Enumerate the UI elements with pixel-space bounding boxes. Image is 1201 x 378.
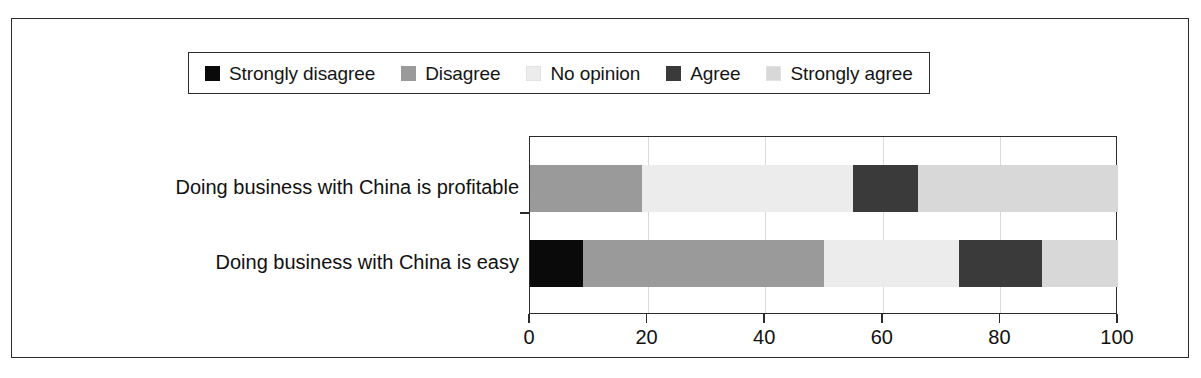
bar-segment bbox=[824, 240, 959, 287]
y-axis-tick bbox=[520, 212, 530, 214]
bar-segment bbox=[530, 240, 583, 287]
legend-entry[interactable]: Agree bbox=[666, 64, 740, 83]
stacked-bar-profitable bbox=[530, 165, 1116, 212]
plot-area bbox=[529, 136, 1117, 314]
legend-swatch-icon bbox=[666, 66, 681, 81]
legend-label: Strongly agree bbox=[790, 64, 912, 83]
legend-swatch-icon bbox=[766, 66, 781, 81]
x-axis-tick bbox=[528, 314, 530, 323]
x-axis-tick-label: 0 bbox=[523, 326, 534, 349]
legend-entry[interactable]: Strongly agree bbox=[766, 64, 912, 83]
legend-label: No opinion bbox=[550, 64, 640, 83]
legend-swatch-icon bbox=[205, 66, 220, 81]
x-axis-tick bbox=[763, 314, 765, 323]
x-axis-tick-label: 60 bbox=[871, 326, 893, 349]
x-axis-tick-label: 40 bbox=[753, 326, 775, 349]
figure-frame: Strongly disagreeDisagreeNo opinionAgree… bbox=[11, 18, 1189, 358]
legend-label: Strongly disagree bbox=[229, 64, 375, 83]
bar-segment bbox=[959, 240, 1041, 287]
bar-segment bbox=[642, 165, 854, 212]
legend-entry[interactable]: Strongly disagree bbox=[205, 64, 375, 83]
x-axis-tick bbox=[646, 314, 648, 323]
scan-edge-artifact bbox=[0, 0, 1201, 12]
bar-segment bbox=[918, 165, 1118, 212]
category-axis-labels: Doing business with China is profitable … bbox=[32, 136, 519, 314]
bar-segment bbox=[1042, 240, 1118, 287]
legend-swatch-icon bbox=[526, 66, 541, 81]
bar-segment bbox=[853, 165, 918, 212]
x-axis-tick-label: 100 bbox=[1100, 326, 1133, 349]
x-axis-tick-label: 20 bbox=[635, 326, 657, 349]
legend-label: Agree bbox=[690, 64, 740, 83]
legend-swatch-icon bbox=[401, 66, 416, 81]
bar-segment bbox=[530, 165, 642, 212]
x-axis-tick bbox=[999, 314, 1001, 323]
category-label-easy: Doing business with China is easy bbox=[39, 251, 519, 274]
bar-segment bbox=[583, 240, 824, 287]
x-axis-tick-label: 80 bbox=[988, 326, 1010, 349]
x-axis: 020406080100 bbox=[529, 314, 1117, 358]
x-axis-tick bbox=[881, 314, 883, 323]
legend-label: Disagree bbox=[425, 64, 500, 83]
stacked-bar-easy bbox=[530, 240, 1116, 287]
legend-entry[interactable]: Disagree bbox=[401, 64, 500, 83]
category-label-profitable: Doing business with China is profitable bbox=[39, 176, 519, 199]
legend-entry[interactable]: No opinion bbox=[526, 64, 640, 83]
x-axis-tick bbox=[1116, 314, 1118, 323]
chart-legend: Strongly disagreeDisagreeNo opinionAgree… bbox=[188, 52, 930, 94]
